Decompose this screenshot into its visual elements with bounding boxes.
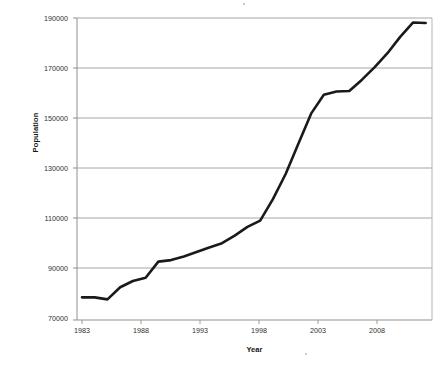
- population-data-line: [82, 23, 426, 300]
- y-axis-ticks: [73, 18, 77, 320]
- stray-speck: [305, 353, 307, 355]
- x-axis-ticks: [82, 320, 377, 324]
- gridlines: [77, 18, 432, 268]
- stray-speck-top: [243, 3, 245, 5]
- population-line-chart: Population Year 190000 170000 150000 130…: [0, 0, 446, 365]
- plot-area: [0, 0, 446, 365]
